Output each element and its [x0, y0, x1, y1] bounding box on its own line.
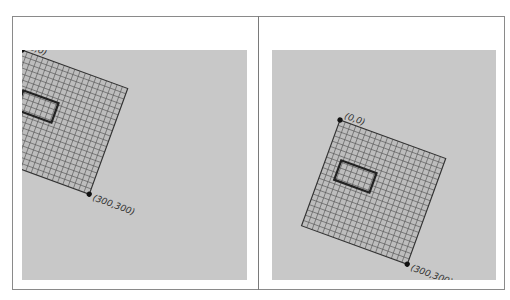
- right-canvas: (0,0)(300,300): [272, 50, 496, 280]
- left-canvas: (0,0)(300,300): [22, 50, 247, 280]
- right-translated-rotated-grid: (0,0)(300,300): [272, 50, 496, 280]
- grid-group: (0,0)(300,300): [297, 109, 495, 280]
- grid-group: (0,0)(300,300): [22, 50, 177, 217]
- corner-label: (300,300): [409, 262, 454, 280]
- panel-divider: [258, 16, 259, 290]
- left-rotated-grid: (0,0)(300,300): [22, 50, 247, 280]
- corner-label: (300,300): [91, 192, 136, 217]
